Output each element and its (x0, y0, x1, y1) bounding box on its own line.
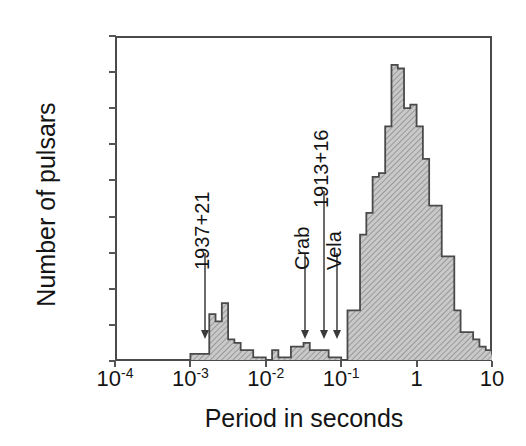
annotation-label-1937plus21: 1937+21 (191, 191, 214, 269)
y-tick-mark-80 (109, 71, 116, 73)
annotation-arrow-head-1913plus16 (320, 330, 328, 339)
y-tick-mark-40 (109, 216, 116, 218)
annotation-arrow-head-Crab (301, 330, 309, 339)
x-tick-label-10: 10 (480, 366, 504, 392)
pulsar-period-histogram-figure: Number of pulsars 0102030405060708090 10… (0, 0, 526, 446)
x-tick-mark-10 (491, 361, 493, 367)
y-tick-mark-30 (109, 252, 116, 254)
x-tick-label-10-4: 10-4 (97, 366, 134, 392)
y-axis-title: Number of pulsars (32, 55, 61, 355)
annotation-arrow-head-Vela (333, 330, 341, 339)
annotation-arrow-head-1937plus21 (201, 330, 209, 339)
x-tick-label-10-3: 10-3 (172, 366, 209, 392)
x-tick-mark-10-2 (265, 361, 267, 367)
x-tick-label-10-1: 10-1 (323, 366, 360, 392)
x-tick-mark-10-4 (114, 361, 116, 367)
x-tick-mark-1 (416, 361, 418, 367)
y-tick-mark-60 (109, 143, 116, 145)
x-tick-mark-10-1 (340, 361, 342, 367)
x-tick-label-10-2: 10-2 (247, 366, 284, 392)
y-tick-mark-50 (109, 179, 116, 181)
x-tick-mark-10-3 (189, 361, 191, 367)
x-tick-label-1: 1 (410, 366, 422, 392)
y-tick-mark-20 (109, 288, 116, 290)
y-tick-mark-70 (109, 107, 116, 109)
annotation-label-Crab: Crab (291, 226, 314, 269)
annotation-label-1913plus16: 1913+16 (310, 130, 333, 208)
x-axis-title: Period in seconds (115, 404, 493, 433)
y-tick-mark-10 (109, 324, 116, 326)
y-tick-mark-90 (109, 35, 116, 37)
annotation-label-Vela: Vela (323, 231, 346, 270)
